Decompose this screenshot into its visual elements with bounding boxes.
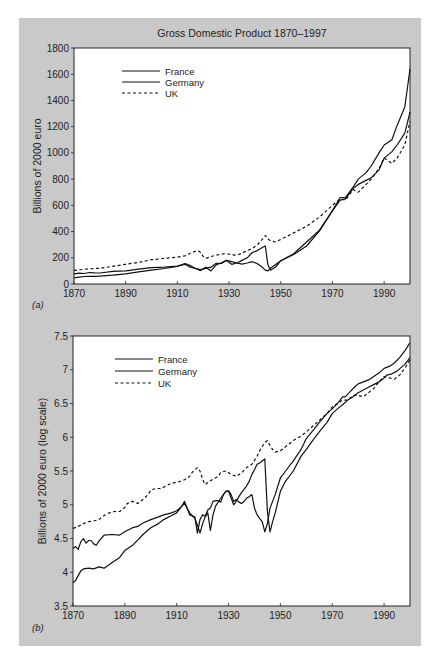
- legend-label-uk: UK: [158, 378, 172, 389]
- panel-label: (a): [32, 299, 44, 310]
- legend-label-germany: Germany: [165, 77, 204, 88]
- legend-label-germany: Germany: [158, 366, 197, 377]
- panel-b: 3.544.555.566.577.5 18701890191019301950…: [32, 331, 410, 634]
- panel-a: Gross Domestic Product 1870–1997 0200400…: [31, 27, 410, 310]
- y-tick-label: 4.5: [54, 533, 68, 544]
- figure: Gross Domestic Product 1870–1997 0200400…: [0, 0, 438, 660]
- x-tick-label: 1990: [373, 610, 396, 621]
- legend-label-uk: UK: [165, 88, 179, 99]
- chart-title: Gross Domestic Product 1870–1997: [157, 27, 326, 39]
- plot-area: [74, 48, 410, 284]
- y-tick-label: 4: [62, 567, 68, 578]
- y-tick-label: 800: [52, 174, 69, 185]
- x-tick-label: 1870: [63, 288, 86, 299]
- y-tick-label: 200: [52, 252, 69, 263]
- y-tick-label: 7.5: [54, 331, 68, 342]
- x-tick-label: 1930: [218, 288, 241, 299]
- x-tick-label: 1970: [321, 610, 344, 621]
- legend-label-france: France: [165, 66, 195, 77]
- x-tick-label: 1890: [115, 288, 138, 299]
- legend-label-france: France: [158, 354, 188, 365]
- y-tick-label: 1800: [47, 43, 70, 54]
- x-tick-label: 1990: [373, 288, 396, 299]
- y-tick-label: 6: [62, 432, 68, 443]
- x-tick-label: 1870: [62, 610, 85, 621]
- y-tick-label: 7: [62, 364, 68, 375]
- y-tick-label: 6.5: [54, 398, 68, 409]
- x-tick-label: 1930: [217, 610, 240, 621]
- y-tick-label: 400: [52, 226, 69, 237]
- y-tick-label: 1200: [47, 121, 70, 132]
- y-tick-label: 5.5: [54, 466, 68, 477]
- x-tick-label: 1950: [269, 610, 292, 621]
- y-tick-label: 1400: [47, 95, 70, 106]
- x-tick-label: 1970: [321, 288, 344, 299]
- x-tick-label: 1910: [166, 610, 189, 621]
- y-tick-label: 1600: [47, 69, 70, 80]
- y-tick-label: 5: [62, 499, 68, 510]
- plot-area: [73, 336, 410, 606]
- x-tick-label: 1890: [114, 610, 137, 621]
- y-axis-label: Billions of 2000 euro: [31, 118, 43, 213]
- panel-label: (b): [32, 622, 44, 633]
- y-axis-label: Billions of 2000 euro (log scale): [36, 398, 48, 545]
- x-tick-label: 1910: [166, 288, 189, 299]
- y-tick-label: 600: [52, 200, 69, 211]
- y-tick-label: 1000: [47, 147, 70, 158]
- x-tick-label: 1950: [270, 288, 293, 299]
